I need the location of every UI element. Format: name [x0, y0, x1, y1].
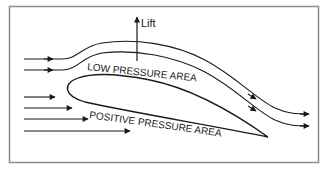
lift-label: Lift [141, 17, 156, 29]
airfoil-lift-diagram: Lift LOW PRESSURE AREA POSITIVE PRESSURE… [0, 0, 326, 174]
diagram-frame [10, 7, 319, 163]
